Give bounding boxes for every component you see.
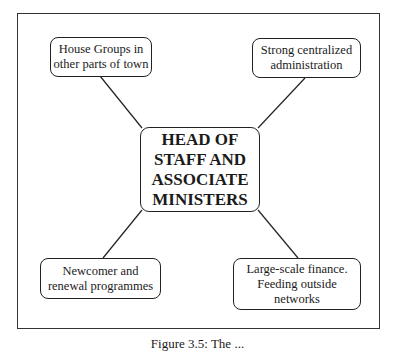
connector-top-left [100,76,142,128]
node-text-line: renewal programmes [48,279,153,294]
center-node-head-of-staff: HEAD OF STAFF AND ASSOCIATE MINISTERS [140,127,260,212]
node-text-line: Newcomer and [48,264,153,279]
node-large-scale-finance: Large-scale finance. Feeding outside net… [233,258,361,310]
node-house-groups: House Groups in other parts of town [50,37,152,77]
center-text-line: STAFF AND [152,150,249,170]
center-text-line: ASSOCIATE [152,170,249,190]
node-centralized-administration: Strong centralized administration [252,38,361,78]
node-text-line: Large-scale finance. [246,262,347,277]
node-text-line: Feeding outside [246,277,347,292]
node-newcomer-renewal: Newcomer and renewal programmes [40,258,161,299]
node-text-line: administration [261,58,352,73]
center-text-line: HEAD OF [152,130,249,150]
node-text-line: other parts of town [54,57,149,72]
node-text-line: Strong centralized [261,43,352,58]
connector-bottom-right [258,210,298,258]
center-text-line: MINISTERS [152,190,249,210]
node-text-line: House Groups in [54,42,149,57]
node-text-line: networks [246,292,347,307]
connector-bottom-left [103,210,142,258]
figure-caption: Figure 3.5: The ... [0,336,395,352]
connector-top-right [258,78,305,128]
